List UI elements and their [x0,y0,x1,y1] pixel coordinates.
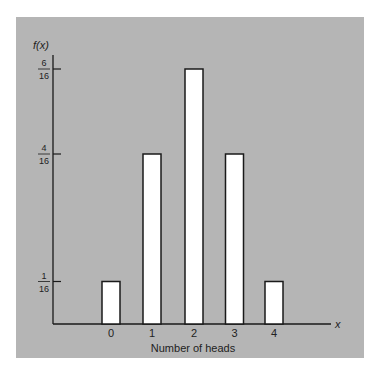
bar-4 [265,282,283,325]
bar-2 [185,69,203,324]
y-tick-denominator: 16 [39,284,49,294]
y-tick-denominator: 16 [39,156,49,166]
y-ticks: 116416616 [38,58,61,294]
x-tick-labels: 01234 [108,327,277,339]
y-tick-numerator: 1 [41,271,46,281]
y-tick-numerator: 6 [41,58,46,68]
bars [102,69,283,324]
bar-3 [226,154,244,324]
y-tick-denominator: 16 [39,71,49,81]
bar-0 [102,282,120,325]
x-axis-title: Number of heads [151,342,236,354]
x-axis-symbol: x [334,318,341,330]
y-axis-label: f(x) [33,39,49,51]
x-tick-label: 2 [191,327,197,339]
bar-chart: f(x) x 116416616 01234 Number of heads [0,0,381,391]
y-tick-numerator: 4 [41,143,46,153]
x-tick-label: 4 [271,327,277,339]
bar-1 [143,154,161,324]
x-tick-label: 3 [231,327,237,339]
x-tick-label: 0 [108,327,114,339]
x-tick-label: 1 [149,327,155,339]
